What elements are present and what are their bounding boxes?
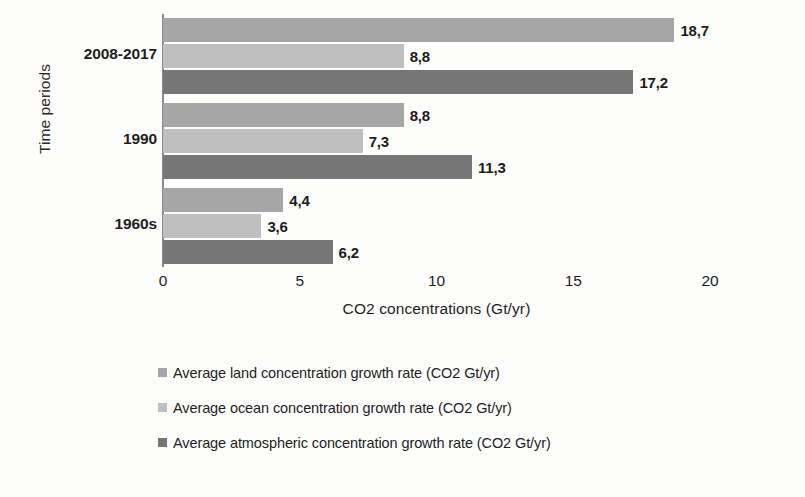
x-axis-ticks: 05101520 [163,272,710,296]
bar[interactable] [163,44,404,68]
bar-group-item: 8,8 [163,44,710,68]
bar-group-item: 6,2 [163,240,710,264]
x-tick-label: 5 [295,272,304,290]
bar-value-label: 18,7 [680,22,708,39]
bar-group-item: 7,3 [163,129,710,153]
legend-swatch-icon [158,438,167,447]
bar[interactable] [163,129,363,153]
bar-value-label: 8,8 [410,48,430,65]
bar-group-item: 17,2 [163,70,710,94]
category-label: 1960s [7,215,157,233]
bar-value-label: 3,6 [267,218,287,235]
bar-chart: Time periods 2008-201719901960s 18,78,81… [0,0,805,497]
category-axis-labels: 2008-201719901960s [0,0,157,270]
bar-group-item: 3,6 [163,214,710,238]
legend-label: Average ocean concentration growth rate … [173,400,512,416]
legend-item[interactable]: Average land concentration growth rate (… [158,355,758,390]
bar[interactable] [163,188,283,212]
bar-value-label: 6,2 [339,244,359,261]
bar-group-item: 4,4 [163,188,710,212]
bar[interactable] [163,70,633,94]
bar-value-label: 11,3 [478,159,506,176]
chart-legend: Average land concentration growth rate (… [158,355,758,460]
legend-item[interactable]: Average atmospheric concentration growth… [158,425,758,460]
bar-value-label: 7,3 [369,133,389,150]
bar[interactable] [163,155,472,179]
x-axis-title: CO2 concentrations (Gt/yr) [163,300,710,318]
legend-swatch-icon [158,403,167,412]
bar[interactable] [163,18,674,42]
bar[interactable] [163,103,404,127]
x-tick-label: 10 [428,272,445,290]
bar-group-item: 11,3 [163,155,710,179]
bar[interactable] [163,214,261,238]
bar-value-label: 17,2 [639,74,667,91]
bar-group-item: 8,8 [163,103,710,127]
legend-swatch-icon [158,368,167,377]
legend-label: Average land concentration growth rate (… [173,365,500,381]
bar-value-label: 8,8 [410,107,430,124]
legend-label: Average atmospheric concentration growth… [173,435,551,451]
bar[interactable] [163,240,333,264]
bar-value-label: 4,4 [289,192,309,209]
category-label: 2008-2017 [7,45,157,63]
plot-area: 18,78,817,28,87,311,34,43,66,2 [163,14,710,267]
category-label: 1990 [7,130,157,148]
legend-item[interactable]: Average ocean concentration growth rate … [158,390,758,425]
x-tick-label: 20 [701,272,718,290]
x-tick-label: 0 [159,272,168,290]
bar-group-item: 18,7 [163,18,710,42]
x-tick-label: 15 [565,272,582,290]
